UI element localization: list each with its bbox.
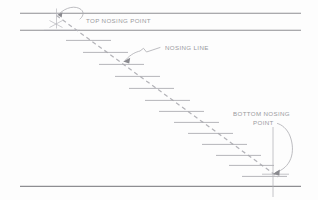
bottom-nosing-point-leader <box>276 124 293 173</box>
nosing-line-leader-group <box>123 48 160 64</box>
diagram-canvas: TOP NOSING POINT NOSING LINE BOTTOM NOSI… <box>0 0 318 200</box>
stair-nosing-diagram: TOP NOSING POINT NOSING LINE BOTTOM NOSI… <box>0 0 318 200</box>
nosing-line-label: NOSING LINE <box>165 44 209 51</box>
nosing-line-leader <box>126 48 161 61</box>
bottom-nosing-point-leader-group <box>273 124 292 176</box>
top-nosing-point-label: TOP NOSING POINT <box>86 17 151 24</box>
nosing-line <box>57 16 279 178</box>
bottom-nosing-point-label-line1: BOTTOM NOSING <box>233 110 290 117</box>
stair-treads-group <box>66 40 287 176</box>
bottom-nosing-point-label-line2: POINT <box>253 119 274 126</box>
